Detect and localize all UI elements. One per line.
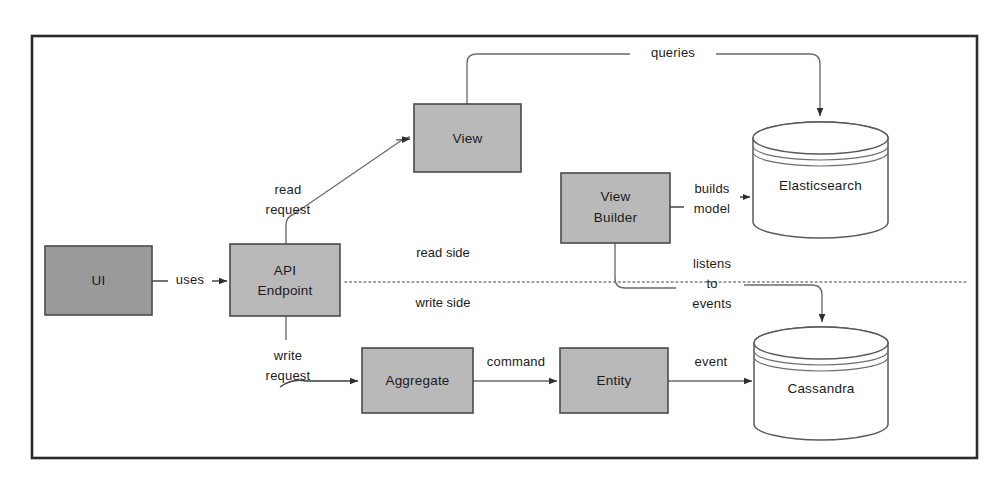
node-label-api-endpoint-line1: API <box>274 263 296 278</box>
edge-label-listens-line2: to <box>706 276 717 291</box>
node-label-elasticsearch: Elasticsearch <box>779 178 862 193</box>
edge-label-read-request-line2: request <box>266 202 311 217</box>
edge-label-listens-line1: listens <box>693 256 732 271</box>
read-side-label: read side <box>416 245 469 260</box>
node-elasticsearch[interactable]: Elasticsearch <box>753 122 888 238</box>
node-cassandra[interactable]: Cassandra <box>754 327 888 440</box>
diagram-canvas: read side write side uses read request q… <box>0 0 1003 484</box>
node-label-view-builder-line2: Builder <box>594 210 638 225</box>
node-api-endpoint[interactable]: API Endpoint <box>230 244 340 316</box>
edge-event: event <box>668 354 752 381</box>
edge-builds-model: builds model <box>670 181 750 216</box>
node-label-api-endpoint-line2: Endpoint <box>258 283 313 298</box>
edge-label-write-request-line1: write <box>273 348 302 363</box>
edge-write-request: write request <box>266 316 358 387</box>
node-entity[interactable]: Entity <box>560 348 668 413</box>
node-label-cassandra: Cassandra <box>787 381 854 396</box>
node-label-view-builder-line1: View <box>601 189 631 204</box>
edge-label-event: event <box>695 354 728 369</box>
edge-read-request: read request <box>266 137 410 244</box>
write-side-label: write side <box>415 295 471 310</box>
edge-label-builds-model-line1: builds <box>694 181 729 196</box>
edge-label-write-request-line2: request <box>266 368 311 383</box>
node-label-entity: Entity <box>597 373 632 388</box>
architecture-diagram: read side write side uses read request q… <box>0 0 1003 484</box>
edge-label-uses: uses <box>176 272 205 287</box>
node-ui[interactable]: UI <box>45 246 152 315</box>
node-view-builder[interactable]: View Builder <box>561 173 670 243</box>
node-view[interactable]: View <box>414 104 521 172</box>
edge-uses: uses <box>152 272 227 287</box>
edge-label-builds-model-line2: model <box>694 201 730 216</box>
edge-label-listens-line3: events <box>692 296 732 311</box>
node-label-view: View <box>453 131 483 146</box>
node-label-ui: UI <box>92 273 106 288</box>
edge-label-read-request-line1: read <box>275 182 302 197</box>
read-write-divider: read side write side <box>345 245 968 310</box>
edge-command: command <box>473 354 557 381</box>
node-aggregate[interactable]: Aggregate <box>362 348 473 413</box>
edge-label-queries: queries <box>651 45 695 60</box>
edge-label-command: command <box>487 354 545 369</box>
node-label-aggregate: Aggregate <box>385 373 449 388</box>
